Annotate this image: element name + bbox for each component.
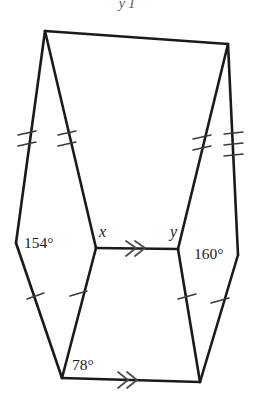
edge-left-lower-outer	[16, 243, 62, 378]
vertex-label-x: x	[99, 224, 106, 240]
ticks-right-lower-outer	[211, 298, 229, 303]
ticks-right-upper-inner	[193, 135, 211, 150]
angle-label-right: 160°	[194, 246, 223, 262]
vertex-label-y: y	[170, 224, 177, 240]
ticks-left-upper-outer	[18, 131, 36, 146]
edge-right-upper-outer	[228, 44, 238, 255]
edge-right-lower-inner	[178, 249, 200, 382]
angle-label-left: 154°	[24, 235, 53, 251]
edge-right-lower-outer	[200, 255, 238, 382]
edge-top	[45, 31, 228, 44]
geometry-figure: y 1	[0, 0, 254, 404]
angle-label-bottom: 78°	[72, 357, 94, 373]
edge-left-upper-outer	[16, 31, 45, 243]
geometry-diagram	[0, 0, 254, 404]
edge-middle-segment	[96, 248, 178, 249]
ticks-left-upper-inner	[58, 131, 76, 146]
edge-left-upper-inner	[45, 31, 96, 248]
edge-right-upper-inner	[178, 44, 228, 249]
edge-bottom	[62, 378, 200, 382]
